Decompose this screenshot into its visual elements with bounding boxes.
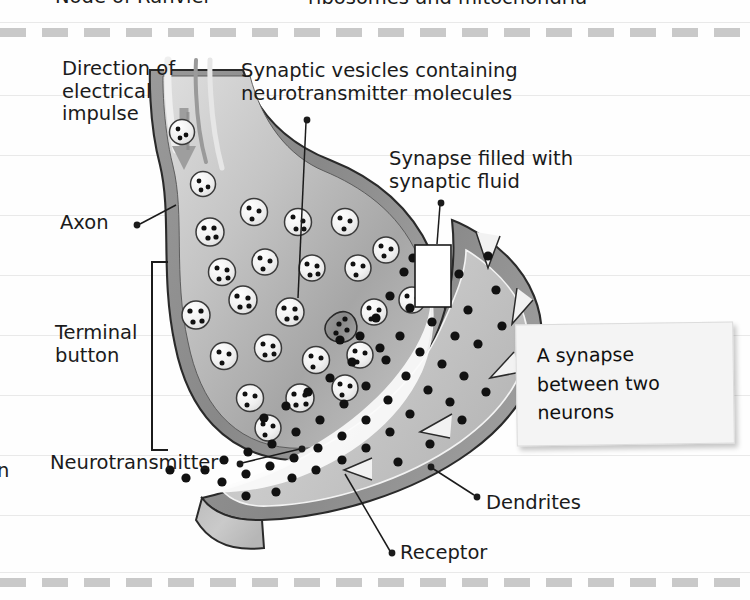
neurotransmitter-dot bbox=[241, 469, 250, 478]
neurotransmitter-dot bbox=[405, 303, 414, 312]
synaptic-vesicle bbox=[345, 255, 371, 281]
neurotransmitter-dot bbox=[463, 305, 472, 314]
label-dendrites: Dendrites bbox=[486, 492, 581, 515]
neurotransmitter-dot bbox=[289, 453, 298, 462]
neurotransmitter-dot bbox=[497, 321, 506, 330]
neurotransmitter-dot bbox=[361, 443, 370, 452]
callout-line-2: between two bbox=[537, 367, 715, 398]
neurotransmitter-dot bbox=[385, 291, 394, 300]
neurotransmitter-dot bbox=[315, 415, 324, 424]
label-receptor: Receptor bbox=[400, 542, 487, 565]
heading-node-of-ranvier: Node of Ranvier bbox=[55, 0, 212, 9]
neurotransmitter-dot bbox=[361, 415, 370, 424]
synaptic-vesicle bbox=[299, 255, 325, 281]
neurotransmitter-dot bbox=[325, 373, 334, 382]
label-synapse-fluid: Synapse filled with synaptic fluid bbox=[389, 148, 573, 193]
heading-ribosomes-mitochondria: ribosomes and mitochondria bbox=[308, 0, 587, 10]
neurotransmitter-dot bbox=[473, 339, 482, 348]
synaptic-vesicle bbox=[303, 347, 330, 374]
label-axon: Axon bbox=[60, 212, 109, 235]
figure-page: Node of Ranvier ribosomes and mitochondr… bbox=[0, 0, 750, 600]
synaptic-vesicle bbox=[285, 209, 312, 236]
neurotransmitter-dot bbox=[415, 347, 424, 356]
neurotransmitter-dot bbox=[427, 317, 436, 326]
neurotransmitter-dot bbox=[335, 335, 344, 344]
neurotransmitter-dot bbox=[401, 371, 410, 380]
magnification-window bbox=[415, 245, 451, 307]
synaptic-vesicle bbox=[182, 301, 210, 329]
synaptic-vesicle bbox=[332, 209, 359, 236]
synaptic-vesicle bbox=[209, 259, 236, 286]
synaptic-vesicle bbox=[373, 237, 399, 263]
neurotransmitter-dot bbox=[217, 477, 226, 486]
neurotransmitter-dot bbox=[291, 427, 300, 436]
synaptic-vesicle bbox=[229, 286, 257, 314]
synaptic-vesicle bbox=[211, 343, 238, 370]
neurotransmitter-dot bbox=[271, 487, 280, 496]
synaptic-vesicle bbox=[196, 218, 224, 246]
neurotransmitter-dot bbox=[450, 331, 459, 340]
neurotransmitter-dot bbox=[383, 395, 392, 404]
neurotransmitter-dot bbox=[399, 267, 408, 276]
neurotransmitter-dot bbox=[393, 457, 402, 466]
neurotransmitter-dot bbox=[381, 355, 390, 364]
neurotransmitter-dot bbox=[375, 343, 384, 352]
neurotransmitter-dot bbox=[395, 331, 404, 340]
neurotransmitter-dot bbox=[181, 473, 190, 482]
callout-note: A synapse between two neurons bbox=[515, 321, 735, 446]
neurotransmitter-dot bbox=[303, 387, 312, 396]
label-direction-of-impulse: Direction of electrical impulse bbox=[62, 58, 175, 126]
terminal-button-bracket bbox=[152, 262, 168, 450]
neurotransmitter-dot bbox=[287, 473, 296, 482]
label-terminal-button: Terminal button bbox=[55, 322, 137, 367]
neurotransmitter-dot bbox=[313, 443, 322, 452]
synaptic-vesicle bbox=[252, 249, 278, 275]
neurotransmitter-dot bbox=[423, 385, 432, 394]
neurotransmitter-dot bbox=[481, 387, 490, 396]
neurotransmitter-dot bbox=[259, 413, 268, 422]
neurotransmitter-dot bbox=[405, 409, 414, 418]
neurotransmitter-dot bbox=[491, 285, 500, 294]
neurotransmitter-dot bbox=[243, 447, 252, 456]
neurotransmitter-dot bbox=[337, 431, 346, 440]
edge-text-fragment: n bbox=[0, 460, 9, 483]
label-synaptic-vesicles: Synaptic vesicles containing neurotransm… bbox=[241, 60, 518, 105]
neurotransmitter-dot bbox=[219, 455, 228, 464]
neurotransmitter-dot bbox=[241, 491, 250, 500]
synaptic-vesicle bbox=[191, 172, 216, 197]
synaptic-vesicle bbox=[241, 199, 268, 226]
synaptic-vesicle bbox=[276, 298, 304, 326]
neurotransmitter-dot bbox=[483, 251, 492, 260]
synaptic-vesicle bbox=[255, 335, 282, 362]
neurotransmitter-dot bbox=[445, 397, 454, 406]
neurotransmitter-dot bbox=[311, 465, 320, 474]
label-neurotransmitter: Neurotransmitter bbox=[50, 452, 218, 475]
neurotransmitter-dot bbox=[337, 455, 346, 464]
neurotransmitter-dot bbox=[425, 439, 434, 448]
leader-synapse bbox=[437, 205, 440, 244]
neurotransmitter-dot bbox=[265, 461, 274, 470]
synaptic-vesicle bbox=[332, 375, 358, 401]
neurotransmitter-dot bbox=[355, 331, 364, 340]
neurotransmitter-dot bbox=[371, 313, 380, 322]
neurotransmitter-dot bbox=[454, 269, 463, 278]
leader-dendrites bbox=[432, 468, 474, 495]
neurotransmitter-dot bbox=[459, 371, 468, 380]
neurotransmitter-dot bbox=[347, 357, 356, 366]
neurotransmitter-dot bbox=[361, 381, 370, 390]
neurotransmitter-dot bbox=[267, 439, 276, 448]
neurotransmitter-dot bbox=[281, 401, 290, 410]
neurotransmitter-dot bbox=[437, 359, 446, 368]
synaptic-vesicle bbox=[237, 385, 264, 412]
callout-line-3: neurons bbox=[537, 396, 715, 427]
callout-line-1: A synapse bbox=[536, 339, 714, 370]
neurotransmitter-dot bbox=[385, 427, 394, 436]
neurotransmitter-dot bbox=[339, 399, 348, 408]
neurotransmitter-dot bbox=[457, 415, 466, 424]
